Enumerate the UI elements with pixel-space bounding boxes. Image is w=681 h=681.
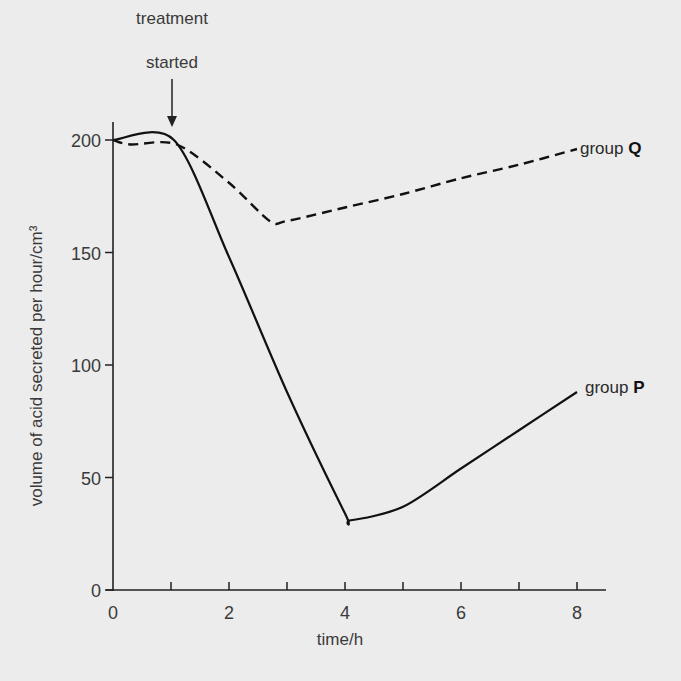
series-line-group-p [113, 132, 577, 524]
y-tick-label: 150 [71, 244, 101, 264]
y-ticks: 050100150200 [71, 131, 113, 601]
annotation-line2: started [146, 53, 198, 72]
x-tick-label: 2 [224, 603, 234, 623]
x-tick-label: 0 [108, 603, 118, 623]
x-tick-label: 8 [572, 603, 582, 623]
y-tick-label: 200 [71, 131, 101, 151]
series-label-group-q: group Q [580, 139, 641, 158]
x-axis-label: time/h [317, 630, 363, 649]
x-tick-label: 4 [340, 603, 350, 623]
y-tick-label: 50 [81, 469, 101, 489]
y-tick-label: 0 [91, 581, 101, 601]
x-tick-label: 6 [456, 603, 466, 623]
series-label-group-p: group P [585, 378, 645, 397]
y-tick-label: 100 [71, 356, 101, 376]
chart: 050100150200 02468 time/h volume of acid… [0, 0, 681, 681]
arrow-down-icon [167, 79, 177, 127]
y-axis-label: volume of acid secreted per hour/cm³ [27, 225, 46, 506]
x-ticks: 02468 [108, 582, 582, 623]
annotation-line1: treatment [136, 9, 208, 28]
